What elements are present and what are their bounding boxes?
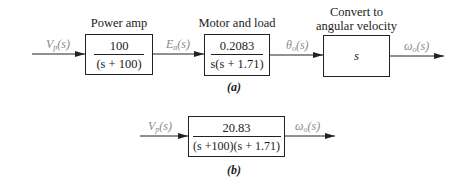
fraction-bar xyxy=(94,54,144,55)
block-convert-velocity: s xyxy=(323,35,390,77)
signal-theta: θo(s) xyxy=(286,39,309,55)
fraction-bar xyxy=(193,136,281,137)
tf-numerator: 0.2083 xyxy=(218,39,256,53)
fraction-bar xyxy=(211,54,263,55)
signal-ea: Ea(s) xyxy=(166,38,190,54)
block-label-motor-load: Motor and load xyxy=(192,17,282,30)
block-label-convert-line1: Convert to xyxy=(310,6,403,19)
block-label-convert-line2: angular velocity xyxy=(310,20,403,33)
block-motor-load: 0.2083 s(s + 1.71) xyxy=(204,34,270,76)
signal-omega-b: ωo(s) xyxy=(295,120,320,136)
block-combined: 20.83 (s +100)(s + 1.71) xyxy=(188,116,285,157)
tf-denominator: (s + 100) xyxy=(94,57,143,71)
tf-s: s xyxy=(354,48,359,64)
tf-denominator: (s +100)(s + 1.71) xyxy=(191,139,282,153)
caption-b: (b) xyxy=(227,163,241,178)
tf-denominator: s(s + 1.71) xyxy=(208,57,265,71)
signal-omega-a: ωo(s) xyxy=(404,40,429,56)
signal-vp-b: Vp(s) xyxy=(148,120,172,136)
tf-numerator: 100 xyxy=(108,39,131,53)
block-power-amp: 100 (s + 100) xyxy=(85,34,153,75)
signal-vp-a: Vp(s) xyxy=(46,38,70,54)
block-label-power-amp: Power amp xyxy=(85,17,153,30)
caption-a: (a) xyxy=(227,80,241,95)
tf-numerator: 20.83 xyxy=(220,121,252,135)
